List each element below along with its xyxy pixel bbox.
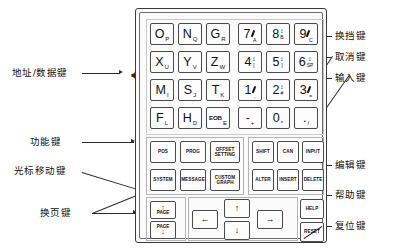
key-page-down[interactable]: PAGE ↓ <box>150 221 176 239</box>
key-minus-plus[interactable]: - + <box>238 107 262 129</box>
key-sub-label: Q <box>193 36 198 42</box>
leader-page-change-keys <box>92 213 136 214</box>
key-main-label: 0 <box>273 112 280 125</box>
key-sub-label: # <box>281 91 284 96</box>
shift-tick-glyph <box>250 30 254 37</box>
key-4-bracket-left[interactable]: 4 ↕ [ <box>238 51 262 73</box>
key-line-1: PAGE <box>157 211 170 216</box>
key-G-R[interactable]: G R <box>206 23 230 45</box>
key-9-C[interactable]: 9 C <box>294 23 318 45</box>
key-can[interactable]: CAN <box>277 141 299 163</box>
key-N-Q[interactable]: N Q <box>178 23 202 45</box>
key-main-label: 5 <box>272 56 279 69</box>
label-reset-key: 复位键 <box>335 221 366 231</box>
key-main-label: 8 <box>272 28 279 41</box>
key-offset-setting[interactable]: OFFSET SETTING <box>210 141 240 163</box>
key-page-up[interactable]: ↑ PAGE <box>150 201 176 219</box>
key-X-U[interactable]: X U <box>150 51 174 73</box>
key-O-P[interactable]: O P <box>150 23 174 45</box>
arrow-up-icon: ↑ <box>235 204 240 213</box>
key-line-1: INPUT <box>306 149 320 154</box>
key-main-label: 2 <box>272 84 279 97</box>
key-system[interactable]: SYSTEM <box>150 169 176 191</box>
key-sub-label: W <box>219 64 225 70</box>
label-shift-key: 换挡键 <box>335 31 366 41</box>
key-main-label: Z <box>211 56 219 69</box>
updown-glyph: ↕ ] <box>280 56 283 68</box>
key-sub-label: A <box>253 38 256 43</box>
shift-tick-glyph <box>251 86 255 93</box>
key-line-1: HELP <box>306 206 319 211</box>
key-sub-label: / <box>307 120 309 126</box>
label-address-data-keys: 地址/数据键 <box>12 68 68 78</box>
key-insert[interactable]: INSERT <box>277 169 299 191</box>
updown-glyph: ↕ [ <box>252 56 255 68</box>
key-sub-label: ] <box>281 63 282 68</box>
label-edit-key: 编辑键 <box>335 160 366 170</box>
key-input[interactable]: INPUT <box>302 141 324 163</box>
key-main-label: M <box>155 84 165 97</box>
key-sub-label: B <box>280 35 283 40</box>
label-function-keys: 功能键 <box>30 137 61 147</box>
key-H-D[interactable]: H D <box>178 107 202 129</box>
key-message[interactable]: MESSAGE <box>180 169 206 191</box>
key-sub-label: E <box>223 120 227 126</box>
key-T-K[interactable]: T K <box>206 79 230 101</box>
label-page-change-keys: 换页键 <box>40 208 71 218</box>
key-sub-label: D <box>193 120 197 126</box>
key-main-label: 6 <box>299 56 306 69</box>
key-Z-W[interactable]: Z W <box>206 51 230 73</box>
key-line-1: MESSAGE <box>181 177 205 182</box>
key-main-label: EOB <box>209 115 222 121</box>
key-main-label: O <box>155 28 165 41</box>
key-main-label: S <box>184 84 192 97</box>
key-main-label: 4 <box>244 56 251 69</box>
arrowhead-address-data-keys <box>119 70 123 74</box>
key-custom-graph[interactable]: CUSTOM GRAPH <box>210 169 240 191</box>
key-prog[interactable]: PROG <box>180 141 206 163</box>
key-cursor-up[interactable]: ↑ <box>224 199 250 218</box>
key-EOB-E[interactable]: EOB E <box>206 107 230 129</box>
key-5-bracket-right[interactable]: 5 ↕ ] <box>266 51 290 73</box>
key-3-equals[interactable]: 3 = <box>294 79 318 101</box>
key-8-B[interactable]: 8 ↕ B <box>266 23 290 45</box>
key-help[interactable]: HELP <box>300 199 324 219</box>
key-sub-label: K <box>220 92 224 98</box>
key-line-1: SHIFT <box>256 149 270 154</box>
key-2-hash[interactable]: 2 ↕ # <box>266 79 290 101</box>
key-delete[interactable]: DELETE <box>302 169 324 191</box>
key-0-asterisk[interactable]: 0 * <box>266 107 290 129</box>
key-line-2: GRAPH <box>216 180 233 185</box>
key-main-label: H <box>183 112 192 125</box>
key-sub-label: = <box>309 94 312 99</box>
key-sub-label: J <box>193 92 196 98</box>
key-line-1: CAN <box>283 149 293 154</box>
key-6-sp[interactable]: 6 ↕ SP <box>294 51 318 73</box>
key-1-comma[interactable]: 1 , <box>238 79 262 101</box>
key-shift[interactable]: SHIFT <box>252 141 274 163</box>
label-cancel-key: 取消键 <box>335 52 366 62</box>
key-period-slash[interactable]: . / <box>294 107 318 129</box>
key-cursor-left[interactable]: ← <box>192 210 218 229</box>
key-sub-label: , <box>254 94 255 99</box>
key-cursor-down[interactable]: ↓ <box>224 221 250 240</box>
key-sub-label: C <box>309 38 313 43</box>
key-sub-label: [ <box>253 63 254 68</box>
updown-glyph: ↕ B <box>280 28 283 40</box>
key-reset[interactable]: RESET <box>300 222 324 242</box>
key-7-A[interactable]: 7 A <box>238 23 262 45</box>
key-line-1: INSERT <box>279 177 296 182</box>
key-M-I[interactable]: M I <box>150 79 174 101</box>
key-sub-label: SP <box>307 63 314 68</box>
key-line-1: ALTER <box>255 177 270 182</box>
key-alter[interactable]: ALTER <box>252 169 274 191</box>
updown-glyph: ↕ SP <box>307 56 314 68</box>
key-cursor-right[interactable]: → <box>257 210 283 229</box>
label-help-key: 帮助键 <box>335 190 366 200</box>
key-F-L[interactable]: F L <box>150 107 174 129</box>
key-Y-V[interactable]: Y V <box>178 51 202 73</box>
key-sub-label: I <box>167 92 169 98</box>
shift-tick-glyph <box>307 86 311 93</box>
key-S-J[interactable]: S J <box>178 79 202 101</box>
key-pos[interactable]: POS <box>150 141 176 163</box>
